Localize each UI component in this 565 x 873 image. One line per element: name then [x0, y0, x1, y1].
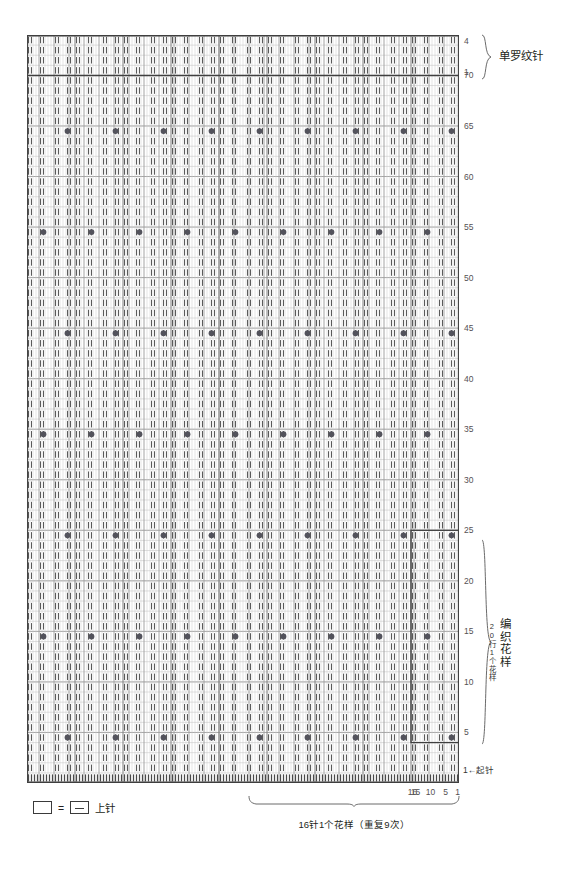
row-number-top-4: 4: [464, 37, 469, 46]
stitch-grid: [27, 35, 459, 783]
cast-on-note: 1←起针: [463, 766, 494, 775]
row-number-15: 15: [464, 627, 473, 636]
repeat-width-brace: [248, 795, 460, 807]
knitting-chart: 706560555045403530252015105 4 1 单罗纹针 编织花…: [0, 0, 565, 873]
pattern-section-note: 20行1个花样: [487, 622, 495, 681]
rib-section-brace: [480, 33, 494, 81]
row-number-65: 65: [464, 122, 473, 131]
row-number-60: 60: [464, 173, 473, 182]
row-number-20: 20: [464, 577, 473, 586]
pattern-section-label: 编织花样: [498, 618, 511, 668]
row-number-30: 30: [464, 476, 473, 485]
row-number-55: 55: [464, 223, 473, 232]
repeat-caption: 16针1个花样（重复9次）: [248, 817, 460, 831]
row-number-25: 25: [464, 526, 473, 535]
row-number-45: 45: [464, 324, 473, 333]
row-number-40: 40: [464, 375, 473, 384]
row-number-5: 5: [464, 728, 469, 737]
row-number-35: 35: [464, 425, 473, 434]
row-number-50: 50: [464, 274, 473, 283]
row-number-10: 10: [464, 678, 473, 687]
stitch-grid-svg: [27, 35, 459, 783]
legend-equals: =: [58, 802, 64, 814]
legend-purl-label: 上针: [95, 800, 115, 815]
legend-blank-cell-icon: [33, 801, 52, 814]
row-number-top-1: 1: [464, 68, 469, 77]
legend: = 上针: [33, 800, 115, 815]
legend-purl-cell-icon: [70, 801, 89, 814]
rib-section-label: 单罗纹针: [499, 50, 543, 63]
